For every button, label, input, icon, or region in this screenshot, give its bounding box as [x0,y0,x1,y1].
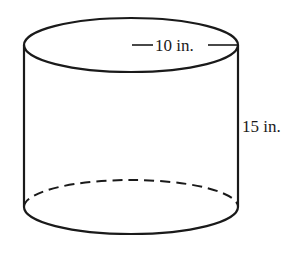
height-label: 15 in. [242,117,281,136]
cylinder-bottom-hidden-edge [24,180,238,207]
cylinder-diagram: 10 in. 15 in. [0,0,302,253]
cylinder-top-ellipse [24,18,238,72]
radius-label: 10 in. [155,36,194,55]
cylinder-bottom-visible-edge [24,207,238,234]
